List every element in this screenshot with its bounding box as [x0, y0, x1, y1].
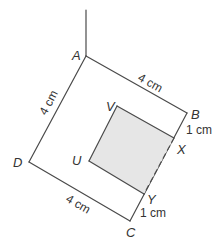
vertex-label-v: V	[106, 99, 116, 114]
vertex-label-y: Y	[147, 192, 157, 207]
edge-ab	[86, 56, 187, 113]
measurement-ad: 4 cm	[36, 88, 61, 118]
vertex-label-u: U	[72, 153, 82, 168]
shaded-square-uvxy	[89, 106, 174, 194]
vertex-label-d: D	[13, 155, 22, 170]
measurement-ab: 4 cm	[136, 70, 166, 95]
vertex-label-b: B	[191, 107, 200, 122]
measurement-yc: 1 cm	[140, 206, 166, 220]
measurement-bx: 1 cm	[186, 123, 212, 137]
measurement-dc: 4 cm	[64, 191, 94, 216]
geometry-diagram: A B C D U V X Y 4 cm 4 cm 4 cm 1 cm 1 cm	[0, 0, 218, 248]
vertex-label-a: A	[71, 48, 81, 63]
vertex-label-c: C	[126, 225, 136, 240]
vertex-label-x: X	[176, 142, 187, 157]
